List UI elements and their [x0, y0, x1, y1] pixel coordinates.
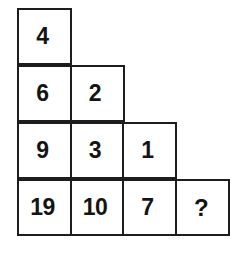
cell-number-label: 2 — [89, 82, 101, 105]
grid-cell: 10 — [70, 179, 125, 236]
grid-cell: 9 — [17, 122, 72, 179]
grid-row: 931 — [17, 122, 227, 179]
cell-number-label: 4 — [36, 25, 48, 48]
puzzle-screen: 46293119107? — [0, 0, 250, 254]
grid-row: 62 — [17, 65, 227, 122]
grid-cell: 4 — [17, 8, 72, 65]
grid-cell: 6 — [17, 65, 72, 122]
grid-cell-unknown: ? — [175, 179, 230, 236]
grid-row: 19107? — [17, 179, 227, 236]
cell-number-label: 1 — [141, 139, 153, 162]
cell-number-label: 7 — [141, 196, 153, 219]
cell-number-label: 9 — [36, 139, 48, 162]
cell-number-label: 19 — [30, 196, 55, 219]
grid-cell: 1 — [122, 122, 177, 179]
grid-cell: 2 — [70, 65, 125, 122]
grid-cell: 19 — [17, 179, 72, 236]
grid-cell: 7 — [122, 179, 177, 236]
question-mark-label: ? — [194, 196, 208, 220]
cell-number-label: 6 — [36, 82, 48, 105]
cell-number-label: 3 — [89, 139, 101, 162]
grid-row: 4 — [17, 8, 227, 65]
grid-cell: 3 — [70, 122, 125, 179]
cell-number-label: 10 — [83, 196, 108, 219]
puzzle-grid: 46293119107? — [17, 8, 227, 236]
